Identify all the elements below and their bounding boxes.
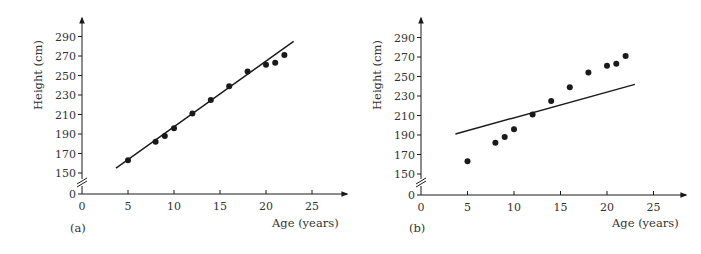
data-point (492, 140, 498, 146)
figure-canvas: 01501701902102302502702900510152025Heigh… (0, 0, 701, 254)
x-tick-label: 10 (507, 201, 521, 214)
data-point (125, 157, 131, 163)
data-point (189, 111, 195, 117)
x-axis-label: Age (years) (611, 216, 679, 230)
y-tick-label: 150 (55, 167, 76, 180)
figure: 01501701902102302502702900510152025Heigh… (0, 0, 701, 254)
y-tick-label: 0 (408, 189, 415, 202)
y-tick-label: 170 (55, 148, 76, 161)
data-point (226, 83, 232, 89)
x-tick-label: 5 (125, 200, 132, 213)
data-point (567, 84, 573, 90)
y-tick-label: 0 (69, 188, 76, 201)
y-tick-label: 170 (394, 149, 415, 162)
y-axis-label: Height (cm) (31, 40, 45, 110)
y-tick-label: 210 (394, 110, 415, 123)
y-tick-label: 290 (394, 32, 415, 45)
data-point (511, 126, 517, 132)
data-point (263, 62, 269, 68)
x-tick-label: 0 (418, 201, 425, 214)
data-point (548, 98, 554, 104)
x-axis-label: Age (years) (271, 216, 339, 230)
data-point (162, 133, 168, 139)
data-point (623, 53, 629, 59)
x-tick-label: 10 (167, 200, 181, 213)
data-point (281, 52, 287, 58)
y-tick-label: 190 (55, 128, 76, 141)
y-tick-label: 250 (55, 70, 76, 83)
x-tick-label: 20 (600, 201, 614, 214)
y-tick-label: 270 (394, 51, 415, 64)
x-tick-label: 15 (554, 201, 568, 214)
data-point (502, 134, 508, 140)
y-tick-label: 230 (394, 90, 415, 103)
fit-line (116, 41, 294, 168)
y-tick-label: 290 (55, 31, 76, 44)
x-tick-label: 25 (647, 201, 661, 214)
chart-panel-b: 01501701902102302502702900510152025Heigh… (370, 18, 686, 235)
x-tick-label: 15 (213, 200, 227, 213)
x-tick-label: 5 (464, 201, 471, 214)
fit-line (455, 84, 634, 134)
data-point (272, 60, 278, 66)
x-tick-label: 25 (305, 200, 319, 213)
y-tick-label: 250 (394, 71, 415, 84)
y-tick-label: 230 (55, 89, 76, 102)
data-point (465, 158, 471, 164)
y-tick-label: 150 (394, 168, 415, 181)
data-point (208, 97, 214, 103)
y-tick-label: 190 (394, 129, 415, 142)
data-point (171, 125, 177, 131)
panel-label: (a) (70, 221, 86, 235)
data-point (245, 69, 251, 75)
data-point (530, 112, 536, 118)
y-tick-label: 210 (55, 109, 76, 122)
chart-panel-a: 01501701902102302502702900510152025Heigh… (31, 18, 347, 235)
x-tick-label: 0 (79, 200, 86, 213)
data-point (153, 139, 159, 145)
data-point (604, 63, 610, 69)
y-axis-label: Height (cm) (370, 40, 384, 110)
data-point (613, 61, 619, 67)
y-tick-label: 270 (55, 50, 76, 63)
x-tick-label: 20 (259, 200, 273, 213)
panel-label: (b) (409, 221, 425, 235)
data-point (585, 70, 591, 76)
